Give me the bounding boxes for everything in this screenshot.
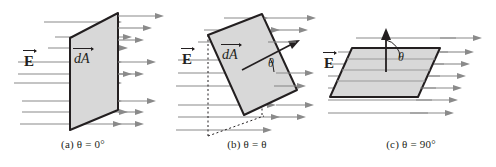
vector-arrow-icon (73, 48, 93, 49)
angle-label-c: θ (398, 51, 404, 63)
electric-flux-figure: E dA (a) θ = 0° (0, 0, 496, 167)
panel-b: E dA θ (b) θ = θ (164, 0, 330, 167)
normal-arrowhead-b (288, 40, 300, 49)
angle-label-b: θ (268, 57, 274, 69)
panel-a: E dA (a) θ = 0° (0, 0, 166, 167)
area-label-a: dA (74, 52, 90, 66)
surface-c (330, 48, 440, 97)
field-label-c: E (324, 56, 333, 71)
vector-arrow-icon (323, 52, 336, 53)
caption-a: (a) θ = 0° (0, 138, 166, 150)
vector-arrow-icon (23, 50, 36, 51)
surface-a (70, 13, 118, 130)
vector-arrow-icon (181, 48, 194, 49)
caption-b: (b) θ = θ (164, 138, 330, 150)
field-lines-a-right (118, 16, 160, 124)
area-label-b: dA (222, 48, 238, 62)
field-arrowheads-right-a (135, 13, 164, 127)
field-label-b: E (182, 52, 191, 67)
vector-arrow-icon (221, 44, 241, 45)
panel-c: E θ (c) θ = 90° (328, 0, 494, 167)
caption-c: (c) θ = 90° (328, 138, 494, 150)
field-arrowheads-b-right (297, 15, 316, 120)
normal-arrowhead-c (381, 28, 391, 40)
field-label-a: E (24, 54, 33, 69)
